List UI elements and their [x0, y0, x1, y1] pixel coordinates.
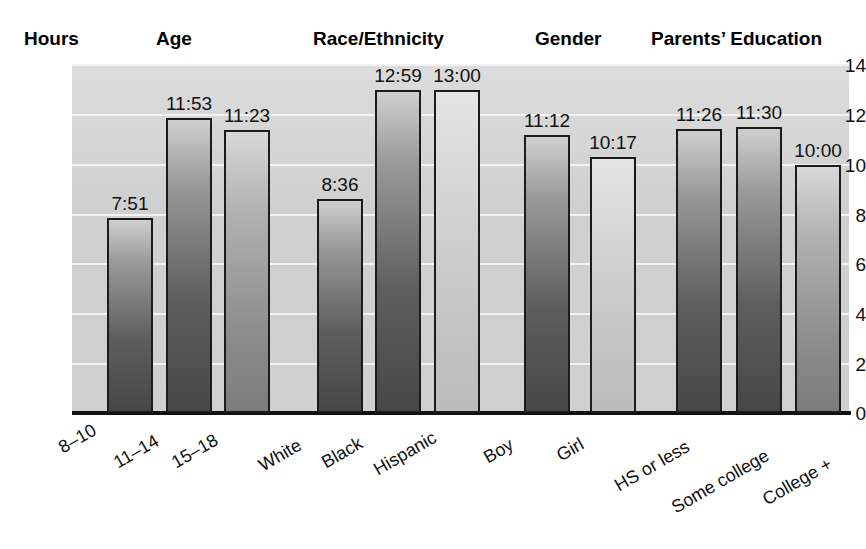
- group-title-age: Age: [156, 28, 192, 50]
- x-label-age-15-18: 15–18: [168, 430, 222, 473]
- x-label-gender-girl: Girl: [553, 434, 588, 466]
- x-label-age-11-14: 11–14: [110, 431, 163, 474]
- bar-value-age-8-10: 7:51: [87, 194, 173, 213]
- bar-race-hispanic: [434, 90, 480, 413]
- x-label-race-hispanic: Hispanic: [370, 427, 440, 480]
- x-label-age-8-10: 8–10: [55, 420, 100, 458]
- bar-value-gender-boy: 11:12: [504, 111, 590, 130]
- x-label-gender-boy: Boy: [480, 434, 517, 468]
- bar-age-8-10: [107, 218, 153, 413]
- group-title-gender: Gender: [535, 28, 602, 50]
- bar-chart: 14 12 10 8 6 4 2 0 Hours Age Race/Ethnic…: [0, 0, 866, 549]
- bar-value-gender-girl: 10:17: [570, 133, 656, 152]
- bar-value-education-some-college: 11:30: [716, 103, 802, 122]
- bar-education-hs-or-less: [676, 129, 722, 413]
- bar-education-some-college: [736, 127, 782, 413]
- bar-age-15-18: [224, 130, 270, 413]
- y-axis-tick-14: 14: [802, 56, 866, 75]
- bar-value-age-15-18: 11:23: [204, 106, 290, 125]
- bar-education-college-plus: [795, 165, 841, 413]
- x-label-education-hs-or-less: HS or less: [611, 436, 693, 496]
- y-axis-title: Hours: [24, 28, 79, 50]
- x-label-race-white: White: [255, 435, 305, 476]
- bar-value-race-hispanic: 13:00: [414, 66, 500, 85]
- bar-age-11-14: [166, 118, 212, 413]
- bar-race-black: [375, 90, 421, 413]
- y-axis-tick-12: 12: [802, 106, 866, 125]
- group-title-race: Race/Ethnicity: [313, 28, 444, 50]
- x-label-race-black: Black: [318, 433, 367, 473]
- bar-value-education-college-plus: 10:00: [775, 141, 861, 160]
- bar-gender-boy: [524, 135, 570, 413]
- bar-gender-girl: [590, 157, 636, 413]
- bar-race-white: [317, 199, 363, 413]
- group-title-education: Parents’ Education: [651, 28, 822, 50]
- bar-value-race-white: 8:36: [297, 175, 383, 194]
